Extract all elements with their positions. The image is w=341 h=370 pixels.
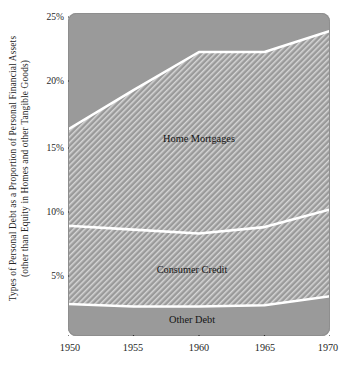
chart-figure: Types of Personal Debt as a Proportion o… [0, 0, 341, 370]
x-tick-label-1965: 1965 [243, 341, 287, 354]
y-tick-label-5: 5% [38, 271, 64, 281]
y-axis-title-text: Types of Personal Debt as a Proportion o… [9, 35, 32, 300]
y-axis-title: Types of Personal Debt as a Proportion o… [0, 0, 40, 336]
x-tick-label-1960: 1960 [177, 341, 221, 354]
y-tick-label-25: 25% [38, 12, 64, 22]
x-tick-label-1955: 1955 [111, 341, 155, 354]
y-axis-tick-labels: 25% 20% 15% 10% 5% [36, 0, 64, 370]
y-axis-title-line-2: (other than Equity in Homes and other Ta… [20, 35, 32, 300]
y-axis-title-line-1: Types of Personal Debt as a Proportion o… [9, 35, 19, 300]
y-tick-label-20: 20% [38, 76, 64, 86]
x-tick-label-1970: 1970 [306, 341, 341, 354]
stacked-area-plot [68, 13, 330, 336]
x-axis-tick-labels: 1950 1955 1960 1965 1970 [0, 341, 341, 359]
series-label-home-mortgages: Home Mortgages [163, 133, 235, 145]
y-tick-label-15: 15% [38, 143, 64, 153]
series-label-consumer-credit: Consumer Credit [157, 264, 228, 276]
series-label-other-debt: Other Debt [169, 314, 215, 326]
plot-area: Home Mortgages Consumer Credit Other Deb… [68, 13, 330, 336]
x-tick-label-1950: 1950 [48, 341, 92, 354]
y-tick-label-10: 10% [38, 207, 64, 217]
